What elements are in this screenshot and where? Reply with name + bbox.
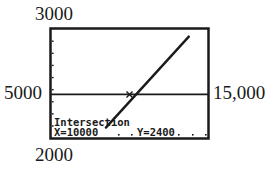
readout-x-value: X=10000 [54, 126, 98, 138]
y-tick-mark [52, 89, 54, 90]
readout-dot [178, 134, 180, 136]
readout-y-value: Y=2400 [137, 126, 175, 138]
y-tick-mark [52, 101, 54, 102]
readout-dot [118, 134, 120, 136]
calculator-graph-screen: Intersection X=10000 Y=2400 [0, 0, 274, 169]
readout-dot [131, 134, 133, 136]
y-tick-mark [52, 77, 54, 78]
y-tick-mark [52, 41, 54, 42]
y-tick-mark [52, 53, 54, 54]
readout-dot [205, 134, 207, 136]
y-tick-mark [52, 113, 54, 114]
y-tick-mark [52, 65, 54, 66]
readout-dot [192, 134, 194, 136]
